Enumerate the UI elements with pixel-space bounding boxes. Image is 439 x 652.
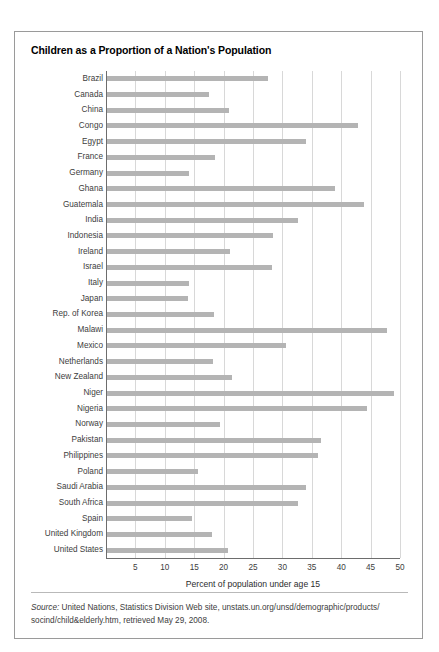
bar bbox=[107, 139, 306, 144]
category-label: Spain bbox=[82, 513, 103, 525]
category-label: United States bbox=[54, 544, 103, 556]
category-label: Niger bbox=[83, 387, 103, 399]
category-label: Israel bbox=[83, 261, 103, 273]
category-label: South Africa bbox=[59, 497, 103, 509]
bar bbox=[107, 516, 192, 521]
category-label: Nigeria bbox=[77, 403, 103, 415]
category-label: Malawi bbox=[78, 324, 103, 336]
bar bbox=[107, 453, 318, 458]
category-label: New Zealand bbox=[55, 371, 103, 383]
bar bbox=[107, 391, 394, 396]
x-tick-label: 20 bbox=[219, 563, 228, 572]
category-label: Germany bbox=[69, 167, 103, 179]
bar bbox=[107, 406, 367, 411]
bar bbox=[107, 532, 212, 537]
category-label: United Kingdom bbox=[45, 528, 103, 540]
x-tick-label: 25 bbox=[248, 563, 257, 572]
x-tick-label: 30 bbox=[278, 563, 287, 572]
bar bbox=[107, 296, 188, 301]
x-axis-title: Percent of population under age 15 bbox=[106, 579, 400, 589]
source-prefix: Source: bbox=[31, 603, 59, 612]
category-label: Ghana bbox=[78, 183, 103, 195]
x-tick-label: 5 bbox=[133, 563, 138, 572]
bar bbox=[107, 265, 272, 270]
category-label: Brazil bbox=[83, 73, 103, 85]
source-text: United Nations, Statistics Division Web … bbox=[31, 603, 379, 625]
x-tick-label: 15 bbox=[190, 563, 199, 572]
bar bbox=[107, 438, 321, 443]
x-tick-label: 45 bbox=[366, 563, 375, 572]
category-label: Norway bbox=[75, 418, 103, 430]
x-tick-label: 10 bbox=[160, 563, 169, 572]
source-note: Source: United Nations, Statistics Divis… bbox=[31, 602, 411, 627]
category-label: Rep. of Korea bbox=[52, 308, 103, 320]
category-label: Congo bbox=[79, 120, 103, 132]
category-label: Poland bbox=[78, 466, 104, 478]
category-label: India bbox=[85, 214, 103, 226]
category-label: Japan bbox=[81, 293, 103, 305]
figure-card: Children as a Proportion of a Nation's P… bbox=[14, 31, 423, 639]
x-tick-label: 50 bbox=[395, 563, 404, 572]
category-label: Ireland bbox=[78, 246, 103, 258]
bar bbox=[107, 422, 220, 427]
category-label: Mexico bbox=[77, 340, 103, 352]
bar bbox=[107, 359, 213, 364]
bar bbox=[107, 202, 364, 207]
gridline-35 bbox=[312, 71, 313, 558]
bar bbox=[107, 76, 268, 81]
bar bbox=[107, 218, 298, 223]
bar bbox=[107, 328, 387, 333]
bar bbox=[107, 485, 306, 490]
bar bbox=[107, 233, 273, 238]
category-label: Canada bbox=[74, 89, 103, 101]
category-label: Pakistan bbox=[72, 434, 103, 446]
bar bbox=[107, 123, 358, 128]
bar bbox=[107, 186, 335, 191]
bar bbox=[107, 92, 209, 97]
category-label: Egypt bbox=[82, 136, 103, 148]
x-tick-label: 40 bbox=[337, 563, 346, 572]
x-axis-line bbox=[106, 558, 400, 559]
category-label: Italy bbox=[88, 277, 103, 289]
bar bbox=[107, 343, 286, 348]
category-label: Philippines bbox=[63, 450, 103, 462]
plot-area: BrazilCanadaChinaCongoEgyptFranceGermany… bbox=[106, 71, 400, 558]
bar bbox=[107, 249, 230, 254]
bar bbox=[107, 469, 198, 474]
category-label: Indonesia bbox=[67, 230, 103, 242]
category-label: Netherlands bbox=[59, 356, 103, 368]
category-label: Saudi Arabia bbox=[57, 481, 103, 493]
x-tick-label: 35 bbox=[307, 563, 316, 572]
bar bbox=[107, 375, 232, 380]
category-label: Guatemala bbox=[63, 199, 103, 211]
gridline-40 bbox=[341, 71, 342, 558]
bar bbox=[107, 108, 229, 113]
bar bbox=[107, 501, 298, 506]
bar bbox=[107, 155, 215, 160]
gridline-45 bbox=[371, 71, 372, 558]
bar bbox=[107, 171, 189, 176]
gridline-50 bbox=[400, 71, 401, 558]
source-divider bbox=[31, 592, 408, 593]
bar bbox=[107, 281, 189, 286]
bar bbox=[107, 548, 228, 553]
chart-title: Children as a Proportion of a Nation's P… bbox=[31, 44, 271, 56]
bar bbox=[107, 312, 214, 317]
category-label: France bbox=[78, 151, 103, 163]
category-label: China bbox=[82, 104, 103, 116]
